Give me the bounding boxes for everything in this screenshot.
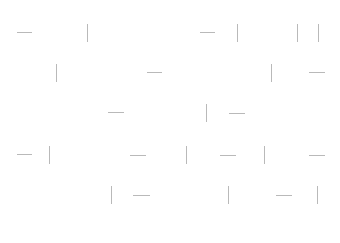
horizontal-dash: [309, 155, 325, 156]
horizontal-dash: [130, 155, 146, 156]
vertical-bar: [237, 24, 238, 42]
vertical-bar: [317, 186, 318, 204]
horizontal-dash: [133, 195, 150, 196]
line-segment-canvas: [0, 0, 340, 243]
horizontal-dash: [229, 113, 245, 114]
horizontal-dash: [220, 155, 236, 156]
vertical-bar: [228, 186, 229, 204]
vertical-bar: [111, 186, 112, 204]
vertical-bar: [318, 24, 319, 42]
horizontal-dash: [108, 112, 124, 113]
vertical-bar: [87, 24, 88, 42]
vertical-bar: [206, 104, 207, 122]
horizontal-dash: [17, 154, 32, 155]
horizontal-dash: [276, 195, 292, 196]
horizontal-dash: [200, 32, 215, 33]
horizontal-dash: [147, 72, 162, 73]
vertical-bar: [56, 64, 57, 82]
horizontal-dash: [17, 32, 32, 33]
vertical-bar: [186, 146, 187, 164]
vertical-bar: [297, 24, 298, 42]
vertical-bar: [271, 64, 272, 82]
vertical-bar: [264, 146, 265, 164]
horizontal-dash: [309, 72, 325, 73]
vertical-bar: [49, 146, 50, 164]
